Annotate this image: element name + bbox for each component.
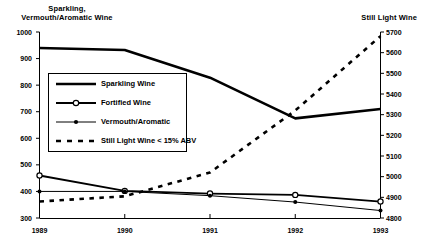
left-tick-label: 300 bbox=[6, 215, 32, 222]
legend-label-vermouth: Vermouth/Aromatic bbox=[101, 117, 170, 126]
legend: Sparkling Wine Fortified Wine Vermouth/A… bbox=[48, 73, 187, 152]
right-tick-label: 5000 bbox=[386, 173, 416, 180]
right-tick-label: 4900 bbox=[386, 194, 416, 201]
legend-swatch-sparkling bbox=[54, 77, 98, 91]
series-marker bbox=[123, 189, 127, 193]
x-tick-label: 1992 bbox=[275, 227, 315, 234]
series-marker bbox=[293, 200, 297, 204]
left-tick-label: 800 bbox=[6, 82, 32, 89]
series-marker bbox=[37, 173, 42, 178]
right-tick-label: 5700 bbox=[386, 29, 416, 36]
right-tick-label: 5600 bbox=[386, 49, 416, 56]
left-tick-label: 500 bbox=[6, 161, 32, 168]
legend-label-sparkling: Sparkling Wine bbox=[101, 79, 155, 88]
left-tick-label: 1000 bbox=[6, 29, 32, 36]
legend-item: Still Light Wine < 15% ABV bbox=[49, 131, 186, 150]
x-tick-label: 1989 bbox=[20, 227, 60, 234]
right-tick-label: 5500 bbox=[386, 70, 416, 77]
legend-item: Fortified Wine bbox=[49, 93, 186, 112]
right-tick-label: 5100 bbox=[386, 153, 416, 160]
x-tick-label: 1991 bbox=[190, 227, 230, 234]
series-marker bbox=[379, 209, 383, 213]
legend-item: Sparkling Wine bbox=[49, 74, 186, 93]
right-tick-label: 5400 bbox=[386, 91, 416, 98]
left-tick-label: 600 bbox=[6, 135, 32, 142]
right-tick-label: 5300 bbox=[386, 111, 416, 118]
legend-swatch-still-light bbox=[54, 134, 98, 148]
left-tick-label: 900 bbox=[6, 55, 32, 62]
x-tick-label: 1990 bbox=[105, 227, 145, 234]
legend-swatch-fortified bbox=[54, 96, 98, 110]
legend-item: Vermouth/Aromatic bbox=[49, 112, 186, 131]
left-tick-label: 700 bbox=[6, 108, 32, 115]
series-marker bbox=[38, 189, 42, 193]
legend-swatch-vermouth bbox=[54, 115, 98, 129]
left-tick-label: 400 bbox=[6, 188, 32, 195]
chart-container: Sparkling, Vermouth/Aromatic Wine Still … bbox=[0, 0, 421, 245]
series-marker bbox=[378, 199, 383, 204]
right-tick-label: 5200 bbox=[386, 132, 416, 139]
x-tick-label: 1993 bbox=[361, 227, 401, 234]
series-marker bbox=[208, 194, 212, 198]
legend-label-fortified: Fortified Wine bbox=[101, 98, 151, 107]
series-marker bbox=[293, 192, 298, 197]
right-tick-label: 4800 bbox=[386, 215, 416, 222]
legend-label-still-light: Still Light Wine < 15% ABV bbox=[101, 136, 196, 145]
